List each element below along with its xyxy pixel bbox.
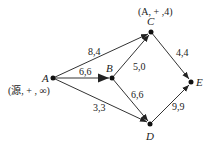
node-a-annotation: (源, + , ∞) — [8, 84, 50, 97]
node-c — [149, 30, 154, 35]
node-d — [148, 122, 153, 127]
node-b — [110, 76, 115, 81]
edge-a-c-label: 8,4 — [88, 46, 101, 57]
edge-a-d-label: 3,3 — [93, 102, 106, 113]
edge-d-e-label: 9,9 — [172, 101, 185, 112]
node-e — [189, 80, 194, 85]
node-b-label: B — [106, 62, 113, 74]
flow-network-diagram: A B C D E (源, + , ∞) (A, + ,4) 8,4 6,6 5… — [0, 0, 211, 152]
edge-b-c-label: 5,0 — [133, 61, 146, 72]
edge-c-e-label: 4,4 — [176, 47, 189, 58]
edge-a-b-label: 6,6 — [79, 66, 92, 77]
node-c-annotation: (A, + ,4) — [138, 6, 173, 18]
node-e-label: E — [195, 76, 203, 88]
node-a — [51, 76, 56, 81]
edge-a-d — [53, 78, 147, 122]
node-d-label: D — [145, 130, 154, 142]
edge-b-d-label: 6,6 — [131, 89, 144, 100]
node-a-label: A — [41, 72, 49, 84]
